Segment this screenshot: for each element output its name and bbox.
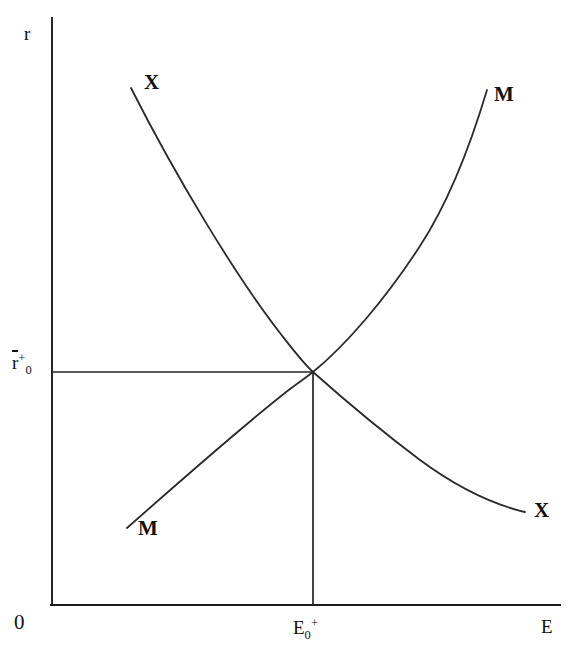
x-axis-equilibrium-tick-label: E0+ — [293, 617, 318, 642]
x-tick-subscript: 0 — [305, 628, 311, 642]
curve-label-x-top: X — [144, 72, 159, 93]
y-tick-base-with-overbar: r — [12, 353, 18, 372]
y-tick-subscript: 0 — [25, 363, 31, 377]
x-tick-base: E — [293, 617, 305, 638]
overbar-accent-icon — [12, 350, 18, 352]
y-axis-equilibrium-tick-label: r+0 — [12, 352, 32, 377]
curve-label-m-top-right: M — [494, 84, 514, 105]
plot-canvas — [0, 0, 571, 654]
curve-m-import — [127, 90, 487, 528]
x-tick-superscript: + — [311, 616, 318, 630]
y-axis-label: r — [24, 24, 30, 43]
origin-label: 0 — [14, 612, 25, 633]
x-axis-label: E — [541, 617, 553, 636]
curve-label-x-bottom-right: X — [534, 500, 549, 521]
y-tick-base: r — [12, 352, 18, 373]
exchange-rate-supply-demand-figure: r E 0 r+0 E0+ X X M M — [0, 0, 571, 654]
curve-label-m-bottom-left: M — [138, 518, 158, 539]
